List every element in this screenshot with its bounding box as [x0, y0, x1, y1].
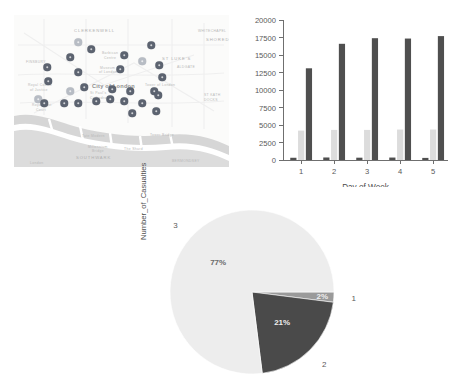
- bar[interactable]: [323, 157, 329, 160]
- y-tick-label: 2500: [259, 139, 276, 148]
- map-incident-pin[interactable]: [152, 107, 160, 115]
- x-axis-title: Day of Week: [342, 183, 390, 187]
- pie-axis-label: Number_of_Casualties: [139, 163, 148, 240]
- bar[interactable]: [339, 44, 345, 160]
- bar[interactable]: [298, 131, 304, 160]
- map-incident-pin[interactable]: [66, 53, 74, 61]
- bar[interactable]: [356, 158, 362, 160]
- map-poi-label: The Shard: [124, 147, 143, 151]
- map-street-label: ALDGATE: [177, 65, 195, 69]
- bar[interactable]: [364, 130, 370, 160]
- map-poi-label: of London: [99, 70, 117, 74]
- x-tick-label: 4: [398, 167, 402, 176]
- map-incident-pin[interactable]: [120, 51, 128, 59]
- bar[interactable]: [397, 130, 403, 160]
- y-tick-label: 0: [272, 156, 276, 165]
- map-poi-label: of Justice: [30, 88, 48, 92]
- map-street-label: WHITECHAPEL: [198, 29, 226, 33]
- y-tick-label: 20000: [255, 16, 276, 25]
- bar[interactable]: [372, 38, 378, 160]
- x-tick-label: 5: [431, 167, 435, 176]
- map-poi-label: Centre: [104, 56, 116, 60]
- map-incident-pin[interactable]: [80, 83, 88, 91]
- pie-slice-label: 2: [322, 360, 327, 369]
- y-tick-label: 12500: [255, 69, 276, 78]
- y-tick-label: 17500: [255, 34, 276, 43]
- map-poi-label: Tower of London: [145, 83, 175, 87]
- map-poi-label: St Paul's: [90, 91, 106, 95]
- map-incident-pin[interactable]: [155, 61, 163, 69]
- map-poi-label: Court: [36, 108, 46, 112]
- pie-slice-percent: 77%: [210, 258, 226, 267]
- y-tick-label: 5000: [259, 121, 276, 130]
- map-incident-pin[interactable]: [87, 45, 95, 53]
- map-incident-pin[interactable]: [92, 97, 100, 105]
- x-tick-label: 1: [299, 167, 303, 176]
- map-incident-pin[interactable]: [66, 87, 74, 95]
- bar-chart-svg: 0250050007500100001250015000175002000012…: [243, 12, 453, 187]
- x-tick-label: 3: [365, 167, 369, 176]
- map-street-label: ST KATH: [204, 93, 220, 97]
- map-street-label: FINSBURY: [26, 60, 46, 64]
- pie-chart-svg: 2%21%77%123: [140, 196, 365, 388]
- bar-chart-panel[interactable]: 0250050007500100001250015000175002000012…: [243, 12, 453, 187]
- map-street-label: DOCKS: [204, 98, 218, 102]
- map-incident-pin[interactable]: [74, 38, 82, 46]
- bar[interactable]: [290, 158, 296, 160]
- map-incident-pin[interactable]: [128, 109, 136, 117]
- bar[interactable]: [306, 68, 312, 160]
- map-incident-pin[interactable]: [138, 57, 146, 65]
- map-incident-pin[interactable]: [154, 91, 162, 99]
- bar[interactable]: [405, 39, 411, 160]
- map-poi-label: Tower Bridge: [150, 133, 174, 137]
- y-tick-label: 7500: [259, 104, 276, 113]
- pie-slice-percent: 2%: [317, 292, 329, 301]
- map-incident-pin[interactable]: [138, 99, 146, 107]
- bar[interactable]: [389, 158, 395, 160]
- map-incident-pin[interactable]: [60, 99, 68, 107]
- y-tick-label: 10000: [255, 86, 276, 95]
- map-district-label: ST LUKE'S: [162, 56, 191, 61]
- map-incident-pin[interactable]: [74, 99, 82, 107]
- map-incident-pin[interactable]: [43, 63, 51, 71]
- map-incident-pin[interactable]: [116, 65, 124, 73]
- map-street-label: BERMONDSEY: [172, 159, 200, 163]
- map-incident-pin[interactable]: [106, 95, 114, 103]
- map-panel[interactable]: CLERKENWELL ST LUKE'S SHOREDITCH SOUTHWA…: [14, 15, 229, 167]
- map-district-label: SHOREDITCH: [206, 37, 229, 42]
- bar[interactable]: [430, 130, 436, 160]
- map-incident-pin[interactable]: [158, 73, 166, 81]
- map-district-label: CLERKENWELL: [74, 28, 115, 33]
- bar[interactable]: [331, 130, 337, 160]
- map-incident-pin[interactable]: [108, 85, 116, 93]
- pie-chart-panel[interactable]: Number_of_Casualties 2%21%77%123: [140, 196, 365, 388]
- pie-slice-label: 3: [173, 221, 178, 230]
- map-poi-label: Bridge: [92, 149, 104, 153]
- map-poi-label: Tate Modern: [82, 134, 105, 138]
- bar[interactable]: [438, 36, 444, 160]
- map-incident-pin[interactable]: [74, 68, 82, 76]
- y-tick-label: 15000: [255, 51, 276, 60]
- pie-slice-label: 1: [352, 294, 357, 303]
- map-incident-pin[interactable]: [40, 99, 48, 107]
- map-incident-pin[interactable]: [126, 87, 134, 95]
- map-poi-label: Barbican: [102, 51, 118, 55]
- map-incident-pin[interactable]: [44, 77, 52, 85]
- x-tick-label: 2: [332, 167, 336, 176]
- map-district-label: SOUTHWARK: [76, 155, 111, 160]
- pie-slice-percent: 21%: [274, 318, 290, 327]
- map-incident-pin[interactable]: [120, 97, 128, 105]
- map-incident-pin[interactable]: [147, 41, 155, 49]
- bar[interactable]: [422, 158, 428, 160]
- map-poi-label: London: [30, 161, 43, 165]
